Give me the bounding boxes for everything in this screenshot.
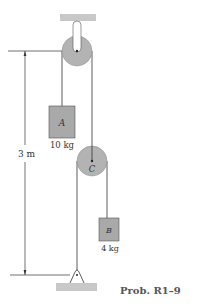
ground-pin-icon bbox=[76, 274, 78, 276]
ground-pin-support bbox=[70, 270, 84, 283]
block-a-label: A bbox=[58, 118, 66, 128]
ceiling-support bbox=[60, 14, 96, 21]
top-pulley-hanger bbox=[73, 21, 81, 52]
dimension-arrow-bottom-icon bbox=[24, 270, 27, 275]
figure-caption: Prob. R1–9 bbox=[120, 285, 181, 296]
top-pulley-axle-icon bbox=[76, 50, 78, 52]
dimension-label: 3 m bbox=[18, 149, 36, 159]
dimension-arrow-top-icon bbox=[24, 51, 27, 56]
pulley-system-diagram: 3 m A 10 kg C B 4 kg Prob. R1–9 bbox=[0, 0, 198, 304]
pulley-c-axle-icon bbox=[91, 160, 93, 162]
pulley-c-label: C bbox=[89, 164, 96, 174]
ground-support bbox=[56, 283, 97, 291]
block-b-label: B bbox=[105, 226, 112, 235]
block-a-mass: 10 kg bbox=[50, 140, 75, 150]
block-b-mass: 4 kg bbox=[101, 244, 119, 253]
